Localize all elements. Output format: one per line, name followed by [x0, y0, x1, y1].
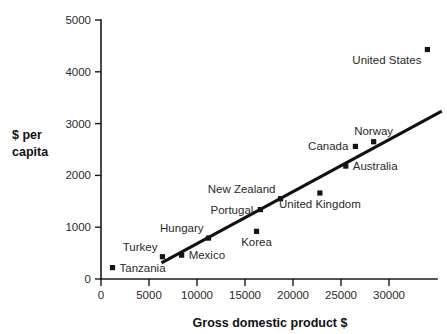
x-tick-label: 10000 [181, 289, 213, 301]
data-point-label: Portugal [211, 204, 254, 216]
data-point-label: Canada [308, 140, 349, 152]
data-point-label: Norway [354, 125, 393, 137]
trend-line [161, 111, 441, 263]
data-point-marker [110, 265, 115, 270]
data-point-label: United Kingdom [279, 198, 361, 210]
data-point-label: Hungary [160, 222, 204, 234]
x-tick-label: 0 [98, 289, 104, 301]
x-tick-label: 25000 [325, 289, 357, 301]
y-tick-label: 1000 [65, 221, 91, 233]
chart-canvas: 010002000300040005000 050001000015000200… [0, 0, 447, 334]
data-point-label: Tanzania [120, 262, 167, 274]
y-tick-label: 2000 [65, 169, 91, 181]
x-tick-label: 30000 [373, 289, 405, 301]
y-tick-label: 4000 [65, 66, 91, 78]
data-point-labels: TanzaniaTurkeyMexicoHungaryKoreaPortugal… [120, 54, 422, 274]
y-axis-title-line-1: $ per [12, 128, 42, 142]
data-point-label: Australia [353, 160, 398, 172]
data-point-label: Mexico [189, 249, 225, 261]
y-tick-label: 3000 [65, 118, 91, 130]
y-axis-ticks: 010002000300040005000 [65, 14, 101, 285]
data-point-marker [206, 235, 211, 240]
data-point-marker [160, 254, 165, 259]
y-tick-label: 5000 [65, 14, 91, 26]
y-tick-label: 0 [85, 273, 91, 285]
data-point-marker [371, 139, 376, 144]
scatter-chart: 010002000300040005000 050001000015000200… [0, 0, 447, 334]
x-tick-label: 20000 [277, 289, 309, 301]
data-point-marker [254, 229, 259, 234]
data-point-label: United States [352, 54, 421, 66]
data-point-marker [317, 190, 322, 195]
y-axis-title-line-2: capita [12, 145, 49, 159]
data-point-marker [425, 47, 430, 52]
data-point-marker [343, 163, 348, 168]
x-axis-ticks: 050001000015000200002500030000 [98, 279, 405, 301]
x-tick-label: 5000 [136, 289, 162, 301]
x-tick-label: 15000 [229, 289, 261, 301]
data-point-marker [258, 207, 263, 212]
data-point-marker [179, 253, 184, 258]
data-point-marker [353, 144, 358, 149]
x-axis-title: Gross domestic product $ [193, 316, 348, 330]
data-point-label: Turkey [123, 241, 158, 253]
data-point-label: Korea [241, 236, 272, 248]
data-point-label: New Zealand [208, 183, 276, 195]
